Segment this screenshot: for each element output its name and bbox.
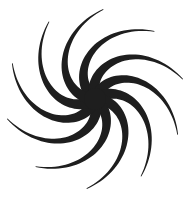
spiral-icon [0,0,188,201]
spiral-core [84,88,106,110]
swirl-graphic [0,0,188,201]
